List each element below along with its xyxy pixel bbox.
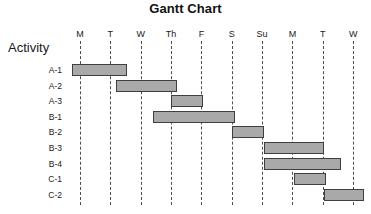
gantt-bar-b-2[interactable] <box>232 126 264 138</box>
gantt-bar-c-2[interactable] <box>324 189 363 201</box>
gridline-3 <box>171 41 172 205</box>
y-axis-label: Activity <box>8 40 49 55</box>
category-label-a-2: A-2 <box>0 81 62 91</box>
gantt-bar-b-1[interactable] <box>153 111 235 123</box>
category-label-b-1: B-1 <box>0 112 62 122</box>
x-tick-label-0: M <box>76 29 84 39</box>
gridline-9 <box>353 41 354 205</box>
x-tick-label-2: W <box>136 29 145 39</box>
gantt-chart: Gantt Chart Activity MTWThFSSuMTW A-1A-2… <box>0 0 371 214</box>
x-tick-label-9: W <box>349 29 358 39</box>
x-tick-label-3: Th <box>166 29 177 39</box>
gridline-6 <box>262 41 263 205</box>
x-tick-label-8: T <box>320 29 326 39</box>
x-tick-label-1: T <box>108 29 114 39</box>
chart-title: Gantt Chart <box>0 1 371 16</box>
x-tick-label-4: F <box>199 29 205 39</box>
gantt-bar-b-3[interactable] <box>264 142 325 154</box>
category-label-b-2: B-2 <box>0 127 62 137</box>
category-label-b-4: B-4 <box>0 159 62 169</box>
x-tick-label-5: S <box>229 29 235 39</box>
gridline-5 <box>232 41 233 205</box>
gantt-bar-c-1[interactable] <box>294 173 326 185</box>
gantt-bar-a-1[interactable] <box>72 64 127 76</box>
gantt-bar-b-4[interactable] <box>264 158 341 170</box>
category-label-c-2: C-2 <box>0 190 62 200</box>
gantt-bar-a-2[interactable] <box>116 80 177 92</box>
gridline-2 <box>141 41 142 205</box>
category-label-a-3: A-3 <box>0 96 62 106</box>
gridline-4 <box>201 41 202 205</box>
category-label-c-1: C-1 <box>0 174 62 184</box>
category-label-b-3: B-3 <box>0 143 62 153</box>
gantt-bar-a-3[interactable] <box>171 95 203 107</box>
category-label-a-1: A-1 <box>0 65 62 75</box>
x-tick-label-6: Su <box>257 29 268 39</box>
x-tick-label-7: M <box>289 29 297 39</box>
